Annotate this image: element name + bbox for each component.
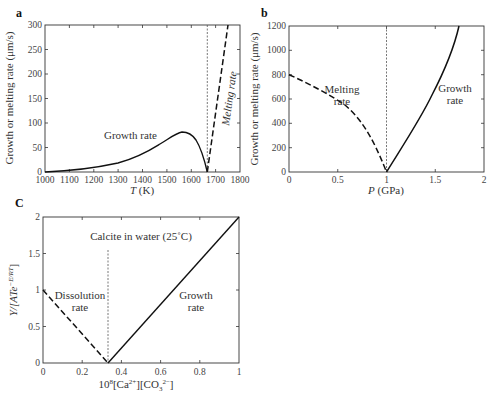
svg-text:1: 1 — [237, 367, 242, 377]
dissolution-annotation-line1-c: Dissolution — [55, 289, 106, 301]
chart-title-c: Calcite in water (25˚C) — [90, 230, 192, 243]
svg-text:1200: 1200 — [84, 175, 103, 185]
svg-text:0.8: 0.8 — [194, 367, 206, 377]
growth-annotation-line1-b: Growth — [438, 82, 472, 94]
svg-text:1200: 1200 — [267, 21, 286, 31]
svg-text:0: 0 — [41, 367, 46, 377]
svg-text:1500: 1500 — [157, 175, 176, 185]
panel-label-b: b — [261, 6, 268, 20]
melting-rate-annotation-a: Melting rate — [219, 70, 239, 127]
panel-label-c: C — [15, 196, 24, 210]
svg-text:1000: 1000 — [267, 45, 286, 55]
svg-text:1.5: 1.5 — [429, 175, 441, 185]
svg-text:1600: 1600 — [182, 175, 201, 185]
svg-text:0.5: 0.5 — [28, 322, 40, 332]
svg-text:2: 2 — [482, 175, 487, 185]
figure: a 1000 1100 1200 1300 1400 1500 — [0, 0, 498, 400]
y-tick-labels-a: 0 50 100 150 200 250 300 — [28, 20, 43, 177]
x-tick-labels-c: 0 0.2 0.4 0.6 0.8 1 — [41, 367, 242, 377]
svg-text:0.4: 0.4 — [115, 367, 127, 377]
svg-text:1: 1 — [35, 285, 40, 295]
svg-text:1300: 1300 — [109, 175, 128, 185]
panel-c: C 0 0.2 0.4 0.6 0.8 1 0 0.5 1 1.5 2 108 — [7, 196, 242, 393]
melting-annotation-line2-b: rate — [334, 95, 351, 107]
growth-annotation-line2-c: rate — [188, 301, 205, 313]
svg-text:0: 0 — [287, 175, 292, 185]
y-tick-labels-b: 0 200 400 600 800 1000 1200 — [267, 21, 286, 177]
svg-text:800: 800 — [272, 70, 287, 80]
y-axis-label-b: Growth or melting rate (μm/s) — [248, 32, 261, 165]
growth-annotation-line2-b: rate — [447, 94, 464, 106]
svg-text:600: 600 — [272, 94, 287, 104]
svg-text:0: 0 — [37, 167, 42, 177]
y-axis-label-a: Growth or melting rate (μm/s) — [3, 31, 16, 164]
x-axis-label-b: P (GPa) — [367, 184, 404, 197]
svg-text:2: 2 — [35, 212, 40, 222]
svg-text:200: 200 — [28, 69, 43, 79]
x-axis-label-c: 108[Ca2+][CO32−] — [98, 378, 173, 393]
svg-text:1100: 1100 — [60, 175, 79, 185]
svg-text:100: 100 — [28, 118, 43, 128]
svg-text:0: 0 — [35, 358, 40, 368]
dissolution-annotation-line2-c: rate — [72, 301, 89, 313]
svg-text:0.6: 0.6 — [155, 367, 167, 377]
svg-text:0.2: 0.2 — [76, 367, 88, 377]
svg-text:200: 200 — [272, 143, 287, 153]
melting-annotation-line1-b: Melting — [325, 83, 360, 95]
x-axis-label-a: T (K) — [130, 184, 154, 197]
svg-text:400: 400 — [272, 118, 287, 128]
svg-text:1700: 1700 — [206, 175, 225, 185]
svg-text:1800: 1800 — [231, 175, 250, 185]
svg-text:0.5: 0.5 — [332, 175, 344, 185]
svg-text:0: 0 — [281, 167, 286, 177]
y-axis-label-c: Y/[ATe−E/RT] — [7, 264, 19, 317]
panel-label-a: a — [16, 6, 22, 20]
growth-rate-annotation-a: Growth rate — [104, 129, 157, 141]
svg-text:250: 250 — [28, 45, 43, 55]
svg-text:50: 50 — [33, 143, 43, 153]
panel-b: b 0 0.5 1 1.5 2 0 200 400 600 800 — [248, 6, 487, 197]
panel-a: a 1000 1100 1200 1300 1400 1500 — [3, 6, 250, 197]
svg-text:300: 300 — [28, 20, 43, 30]
svg-text:150: 150 — [28, 94, 43, 104]
svg-text:1.5: 1.5 — [28, 249, 40, 259]
growth-annotation-line1-c: Growth — [179, 289, 213, 301]
y-tick-labels-c: 0 0.5 1 1.5 2 — [28, 212, 40, 368]
